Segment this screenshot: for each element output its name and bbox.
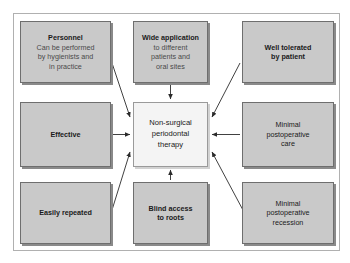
node-wide-application[interactable]: Wide application to different patients a…	[133, 21, 208, 83]
node-personnel-sub-line2: by hygienists and	[24, 52, 107, 62]
node-effective[interactable]: Effective	[20, 102, 111, 167]
node-well-tolerated[interactable]: Well tolerated by patient	[242, 21, 334, 83]
node-minimal-postoperative-recession-line3: recession	[273, 218, 304, 227]
node-center-non-surgical-periodontal-therapy[interactable]: Non-surgical periodontal therapy	[133, 102, 208, 167]
node-easily-repeated[interactable]: Easily repeated	[20, 182, 111, 244]
node-easily-repeated-line1: Easily repeated	[39, 208, 92, 217]
node-wide-application-text: Wide application to different patients a…	[137, 33, 204, 71]
node-minimal-postoperative-recession[interactable]: Minimal postoperative recession	[242, 182, 334, 244]
node-well-tolerated-line2: by patient	[271, 52, 305, 61]
node-minimal-postoperative-care[interactable]: Minimal postoperative care	[242, 102, 334, 167]
node-center-text: Non-surgical periodontal therapy	[149, 118, 192, 150]
node-well-tolerated-line1: Well tolerated	[265, 43, 312, 52]
node-well-tolerated-text: Well tolerated by patient	[246, 43, 330, 62]
node-center-line2: periodontal	[152, 129, 190, 138]
node-blind-access-to-roots-line2: to roots	[157, 213, 184, 222]
node-minimal-postoperative-care-line2: postoperative	[266, 130, 309, 139]
node-effective-line1: Effective	[51, 130, 81, 139]
node-personnel-sub-line3: in practice	[24, 62, 107, 72]
node-center-line1: Non-surgical	[149, 118, 192, 127]
node-center-line3: therapy	[158, 140, 183, 149]
node-wide-application-sub-line3: oral sites	[137, 62, 204, 72]
node-easily-repeated-text: Easily repeated	[24, 208, 107, 218]
node-wide-application-lead: Wide application	[137, 33, 204, 43]
node-blind-access-to-roots[interactable]: Blind access to roots	[133, 182, 208, 244]
node-wide-application-sub-line1: to different	[137, 43, 204, 53]
node-personnel-sub-line1: Can be performed	[24, 43, 107, 53]
node-minimal-postoperative-care-line3: care	[281, 139, 295, 148]
node-personnel[interactable]: Personnel Can be performed by hygienists…	[20, 21, 111, 83]
node-minimal-postoperative-care-line1: Minimal	[276, 120, 301, 129]
node-personnel-text: Personnel Can be performed by hygienists…	[24, 33, 107, 71]
node-minimal-postoperative-recession-text: Minimal postoperative recession	[246, 199, 330, 228]
node-minimal-postoperative-recession-line2: postoperative	[266, 208, 309, 217]
node-minimal-postoperative-care-text: Minimal postoperative care	[246, 120, 330, 149]
node-effective-text: Effective	[24, 130, 107, 140]
node-blind-access-to-roots-text: Blind access to roots	[137, 204, 204, 223]
node-minimal-postoperative-recession-line1: Minimal	[276, 199, 301, 208]
diagram-root: Personnel Can be performed by hygienists…	[0, 0, 350, 263]
node-blind-access-to-roots-line1: Blind access	[149, 204, 193, 213]
node-wide-application-sub-line2: patients and	[137, 52, 204, 62]
node-personnel-lead: Personnel	[24, 33, 107, 43]
